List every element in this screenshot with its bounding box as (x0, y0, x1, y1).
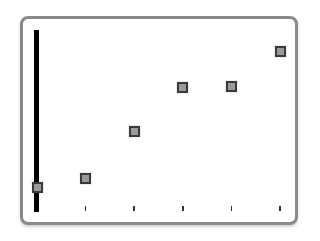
x-tick (279, 206, 281, 211)
x-tick (182, 206, 184, 211)
x-tick (85, 206, 87, 211)
x-tick (231, 206, 233, 211)
data-point-marker (32, 182, 43, 193)
data-point-marker (80, 173, 91, 184)
data-point-marker (275, 46, 286, 57)
data-point-marker (177, 82, 188, 93)
x-tick (133, 206, 135, 211)
data-point-marker (129, 126, 140, 137)
chart-frame (20, 16, 298, 225)
data-point-marker (226, 81, 237, 92)
